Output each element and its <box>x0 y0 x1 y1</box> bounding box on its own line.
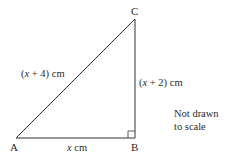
triangle-diagram: A B C (x + 4) cm (x + 2) cm x cm Not dra… <box>0 0 235 167</box>
right-angle-marker <box>128 131 135 138</box>
side-bc-label: (x + 2) cm <box>139 77 183 89</box>
side-ab-label: x cm <box>66 142 87 153</box>
vertex-b-label: B <box>131 141 138 153</box>
vertex-c-label: C <box>131 5 138 17</box>
scale-note-line2: to scale <box>174 121 206 132</box>
vertex-a-label: A <box>10 141 18 153</box>
side-ac-label: (x + 4) cm <box>21 68 65 80</box>
scale-note-line1: Not drawn <box>174 108 219 119</box>
